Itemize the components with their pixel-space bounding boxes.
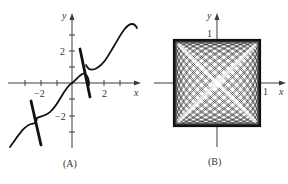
- curve-lower: [10, 74, 89, 147]
- panel-b: y x 1 1 (B): [154, 10, 286, 168]
- x-tick-label-2: 2: [102, 88, 107, 99]
- caption-b: (B): [208, 156, 221, 168]
- x-axis-arrow-icon: [134, 81, 141, 86]
- y-axis-label: y: [61, 10, 67, 21]
- x-axis-label: x: [133, 87, 139, 98]
- panel-a: y x −2 2 2 −2 (A): [8, 10, 141, 170]
- x-axis-arrow-icon: [279, 81, 286, 86]
- parametric-mesh: [175, 41, 259, 125]
- steep-segment-right: [80, 49, 90, 97]
- curve-upper: [86, 24, 137, 70]
- figure: y x −2 2 2 −2 (A) y x 1 1 (B): [0, 0, 288, 184]
- y-tick-label-neg2: −2: [55, 111, 66, 122]
- y-tick-label-2: 2: [60, 46, 65, 57]
- x-axis-label: x: [278, 86, 284, 97]
- y-axis-arrow-icon: [215, 13, 220, 20]
- y-axis-label: y: [206, 10, 212, 21]
- caption-a: (A): [63, 158, 77, 170]
- y-tick-label-1: 1: [207, 28, 212, 39]
- x-tick-label-neg2: −2: [34, 88, 45, 99]
- y-axis-arrow-icon: [70, 13, 75, 20]
- x-tick-label-1: 1: [263, 86, 268, 97]
